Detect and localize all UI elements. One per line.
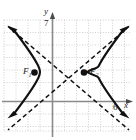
axis-lines: [2, 17, 129, 137]
hyperbola-figure: y 7 6 x F1 F2: [0, 0, 136, 140]
focus-1-subscript: 1: [29, 72, 32, 78]
focus-2-label: F2: [90, 67, 99, 78]
x-axis-label: x: [124, 101, 128, 110]
hyperbola-plot: [0, 0, 136, 140]
focus-2-subscript: 2: [96, 72, 99, 78]
focus-1-label: F1: [23, 67, 32, 78]
x-axis-tick-label: 6: [113, 103, 118, 112]
asymptotes: [8, 27, 129, 131]
y-axis-arrowhead: [50, 12, 55, 19]
focus-1-dot: [31, 69, 38, 76]
y-axis-tick-label: 7: [44, 19, 49, 28]
focus-2-dot: [81, 69, 88, 76]
y-axis-label: y: [44, 7, 48, 16]
